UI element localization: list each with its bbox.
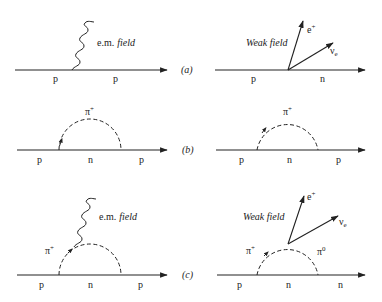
diagram-c-right: Weak field e+ νe π+ π0 p n n [217, 190, 365, 290]
em-field-label: e.m.field [99, 211, 138, 222]
neutrino-label: νe [339, 216, 347, 229]
particle-label: n [286, 279, 291, 290]
pion-loop [59, 119, 121, 150]
pion-loop [257, 125, 318, 150]
weak-field-label: Weak field [243, 211, 286, 222]
photon-wavy-line [72, 21, 94, 70]
pion-plus-label: π+ [246, 244, 255, 256]
em-field-label: e.m.field [97, 37, 136, 48]
neutrino-label: νe [330, 45, 338, 58]
diagram-label-b: (b) [182, 144, 194, 156]
particle-label: n [320, 73, 325, 84]
particle-label: n [287, 154, 292, 165]
particle-label: p [336, 154, 341, 165]
particle-label: p [53, 73, 58, 84]
pion-direction-arrow [264, 253, 267, 256]
particle-label: p [139, 154, 144, 165]
photon-wavy-line [74, 198, 96, 247]
pion-loop [59, 244, 121, 275]
diagram-b-left: π+ p n p [17, 105, 167, 165]
particle-label: p [251, 73, 256, 84]
particle-label: p [113, 73, 118, 84]
particle-label: p [37, 154, 42, 165]
diagram-a-right: Weak field e+ νe p n [215, 21, 365, 84]
pion-direction-arrow [262, 129, 265, 133]
pion-label: π+ [85, 105, 94, 117]
diagram-b-right: π+ p n p [216, 105, 365, 165]
particle-label: p [237, 279, 242, 290]
pion-zero-label: π0 [317, 245, 326, 257]
positron-label: e+ [307, 190, 315, 202]
diagram-c-left: e.m.field π+ p n p [17, 198, 167, 290]
particle-label: n [88, 279, 93, 290]
particle-label: n [338, 279, 343, 290]
diagram-label-a: (a) [181, 64, 193, 76]
diagram-a-left: e.m.field p p [15, 21, 167, 84]
diagram-label-c: (c) [182, 269, 194, 281]
particle-label: n [88, 154, 93, 165]
pion-label: π+ [45, 244, 54, 256]
weak-field-label: Weak field [246, 37, 289, 48]
particle-label: p [39, 279, 44, 290]
particle-label: p [239, 154, 244, 165]
pion-label: π+ [283, 105, 292, 117]
particle-label: p [138, 279, 143, 290]
feynman-diagrams-figure: e.m.field p p (a) Weak field e+ νe p n π… [0, 0, 382, 302]
positron-label: e+ [307, 23, 315, 35]
